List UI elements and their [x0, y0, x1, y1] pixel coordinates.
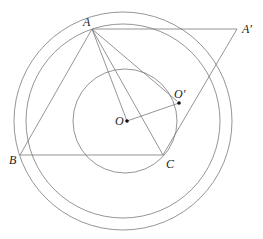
label-c: C	[166, 157, 175, 171]
label-a: A	[82, 15, 91, 29]
label-b: B	[9, 153, 17, 167]
segment-a-c	[92, 29, 163, 155]
geometry-diagram: A A' B C O O'	[0, 0, 263, 239]
point-o	[125, 119, 129, 123]
segment-a-oprime	[92, 29, 177, 101]
inner-circle	[73, 69, 177, 173]
label-a-prime: A'	[241, 22, 252, 36]
segment-a-o	[92, 29, 127, 121]
point-o-prime	[177, 101, 181, 105]
label-o: O	[115, 114, 124, 128]
label-o-prime: O'	[174, 87, 186, 101]
